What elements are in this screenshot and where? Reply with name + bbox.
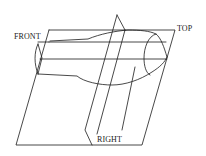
top-plane xyxy=(16,30,175,145)
label-front: FRONT xyxy=(14,33,41,41)
label-right: RIGHT xyxy=(97,136,122,144)
front-plane xyxy=(38,42,167,59)
body-outline xyxy=(35,30,167,85)
right-plane xyxy=(85,15,125,145)
planes-and-body-drawing xyxy=(0,0,206,156)
label-top: TOP xyxy=(177,25,192,33)
diagram-canvas: FRONT TOP RIGHT xyxy=(0,0,206,156)
right-plane-inner xyxy=(122,67,135,130)
